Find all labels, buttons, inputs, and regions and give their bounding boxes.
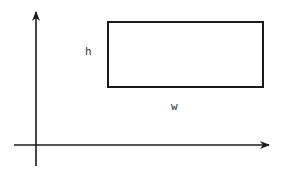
rectangle [108,22,263,87]
diagram-canvas [0,0,287,180]
width-label: w [171,101,178,112]
height-label: h [85,46,92,57]
